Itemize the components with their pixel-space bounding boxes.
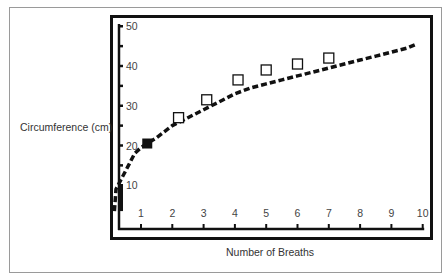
curve-start-bar	[120, 185, 124, 211]
x-tick-label: 2	[169, 207, 175, 219]
axes: 102030405012345678910	[118, 20, 429, 230]
highlighted-point-marker	[142, 139, 152, 149]
measured-point-marker	[324, 53, 334, 63]
x-tick-label: 8	[357, 207, 363, 219]
plot-area: 102030405012345678910	[0, 0, 445, 277]
measured-point-marker	[202, 95, 212, 105]
y-tick-label: 40	[126, 60, 138, 72]
x-tick-label: 9	[388, 207, 394, 219]
measured-point-marker	[174, 113, 184, 123]
y-tick-label: 50	[126, 20, 138, 32]
x-tick-label: 5	[263, 207, 269, 219]
y-tick-label: 10	[126, 179, 138, 191]
x-tick-label: 10	[417, 207, 429, 219]
measured-point-marker	[261, 65, 271, 75]
x-tick-label: 4	[232, 207, 238, 219]
measured-point-marker	[293, 59, 303, 69]
y-tick-label: 20	[126, 140, 138, 152]
y-tick-label: 30	[126, 100, 138, 112]
data-series	[114, 44, 416, 211]
x-tick-label: 6	[295, 207, 301, 219]
x-tick-label: 3	[201, 207, 207, 219]
measured-point-marker	[233, 75, 243, 85]
x-tick-label: 1	[138, 207, 144, 219]
x-tick-label: 7	[326, 207, 332, 219]
